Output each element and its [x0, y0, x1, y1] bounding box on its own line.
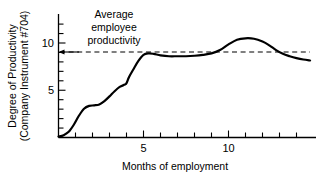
productivity-curve	[59, 38, 311, 136]
x-axis-ticks	[76, 131, 297, 138]
y-axis-title-line1: Degree of Productivity	[6, 24, 18, 128]
x-axis-title: Months of employment	[122, 160, 228, 172]
y-axis-title-line2: (Company Instrument #704)	[18, 11, 30, 142]
y-axis-ticks	[59, 24, 66, 128]
average-line-arrow-head	[59, 49, 65, 54]
learning-curve-chart: 5 10 5 10 Degree of Productivity (Compan…	[0, 0, 327, 180]
annotation-line-1: Average	[95, 8, 134, 20]
annotation-line-3: productivity	[87, 34, 141, 46]
x-tick-label-10: 10	[222, 142, 234, 154]
y-tick-label-10: 10	[42, 37, 54, 49]
x-tick-label-5: 5	[140, 142, 146, 154]
y-tick-label-5: 5	[48, 84, 54, 96]
chart-figure: 5 10 5 10 Degree of Productivity (Compan…	[0, 0, 327, 180]
annotation-line-2: employee	[91, 21, 137, 33]
